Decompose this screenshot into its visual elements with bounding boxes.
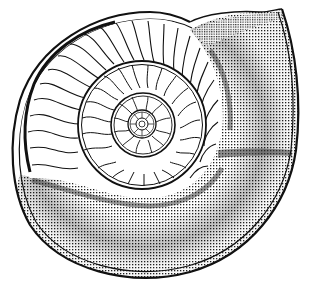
ammonite-illustration: Ammonite shell cross-section line drawin… — [0, 0, 313, 292]
protoconch — [136, 118, 148, 130]
ammonite-drawing — [0, 0, 313, 292]
